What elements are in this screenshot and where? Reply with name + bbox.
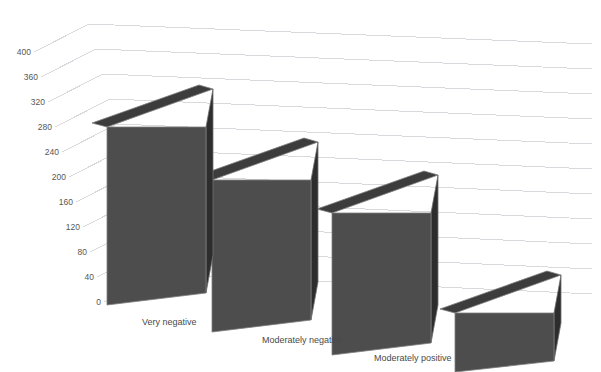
bar-chart-3d: 400 360 320 280 240 200 160 120 80 40 0: [0, 0, 601, 372]
bar-2-front: [212, 180, 311, 332]
bar-2[interactable]: [197, 138, 318, 332]
y-tick-label-80: 80: [78, 247, 88, 257]
y-tick-label-400: 400: [17, 47, 31, 57]
y-tick-label-120: 120: [66, 222, 80, 232]
bar-1-side: [206, 89, 213, 293]
gridline-360: [41, 49, 592, 77]
y-tick-label-160: 160: [59, 197, 73, 207]
category-label-moderately-negative: Moderately negative: [262, 335, 343, 345]
bar-1-top: [92, 85, 213, 127]
bar-4-side: [554, 275, 561, 361]
bar-1[interactable]: [92, 85, 213, 305]
bar-3[interactable]: [317, 171, 438, 355]
bar-3-side: [431, 175, 438, 343]
bar-3-front: [332, 213, 431, 355]
chart-canvas: 400 360 320 280 240 200 160 120 80 40 0: [0, 0, 601, 372]
bar-3-top: [317, 171, 438, 213]
y-tick-label-360: 360: [24, 72, 38, 82]
y-tick-label-40: 40: [85, 272, 95, 282]
y-tick-label-0: 0: [96, 297, 101, 307]
bar-2-side: [311, 142, 318, 320]
category-label-very-negative: Very negative: [142, 317, 197, 327]
gridline-320: [48, 74, 592, 102]
gridline-400: [34, 24, 592, 52]
y-tick-label-200: 200: [52, 172, 66, 182]
bar-4-front: [455, 313, 554, 372]
category-label-moderately-positive: Moderately positive: [374, 353, 452, 363]
y-tick-label-320: 320: [31, 97, 45, 107]
bar-2-top: [197, 138, 318, 180]
y-axis-labels: 400 360 320 280 240 200 160 120 80 40 0: [17, 47, 101, 307]
bar-4[interactable]: [440, 271, 561, 372]
y-tick-label-280: 280: [38, 122, 52, 132]
bar-1-front: [107, 127, 206, 305]
y-tick-label-240: 240: [45, 147, 59, 157]
